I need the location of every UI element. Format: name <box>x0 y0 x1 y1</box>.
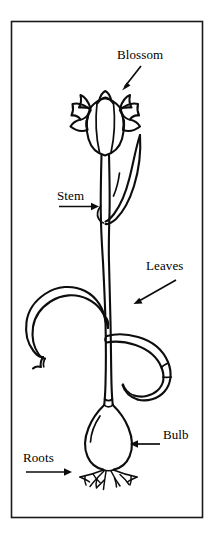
upper-leaf <box>106 135 141 224</box>
bulb <box>85 405 132 471</box>
roots-pointer <box>26 468 72 475</box>
label-bulb: Bulb <box>163 428 189 442</box>
stem <box>97 155 112 407</box>
roots <box>80 470 137 490</box>
left-leaf <box>26 287 108 369</box>
leaves-pointer <box>134 280 177 304</box>
stem-pointer <box>59 203 99 210</box>
bulb-pointer <box>130 440 160 447</box>
label-leaves: Leaves <box>146 259 183 273</box>
blossom <box>71 91 141 156</box>
blossom-pointer <box>122 66 141 91</box>
botanical-diagram: Blossom Stem Leaves Bulb Roots <box>0 0 215 539</box>
label-blossom: Blossom <box>117 48 163 62</box>
right-leaf <box>105 334 171 400</box>
label-stem: Stem <box>57 189 84 203</box>
label-roots: Roots <box>23 451 54 465</box>
